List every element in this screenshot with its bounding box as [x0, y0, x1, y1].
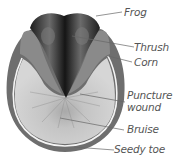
label-seedy-toe: Seedy toe	[114, 144, 165, 155]
hoof-illustration	[0, 0, 179, 165]
hoof-diagram: Frog Thrush Corn Puncture wound Bruise S…	[0, 0, 179, 165]
label-wound: wound	[127, 102, 161, 113]
label-corn: Corn	[134, 57, 158, 68]
label-bruise: Bruise	[127, 124, 159, 135]
label-puncture: Puncture	[127, 90, 172, 101]
label-frog: Frog	[124, 7, 147, 18]
label-thrush: Thrush	[134, 42, 169, 53]
